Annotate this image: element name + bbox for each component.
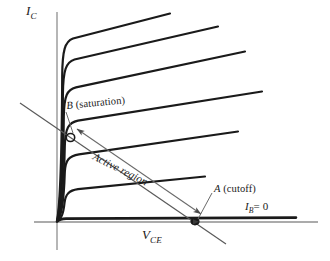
x-axis-label-main: V [142,227,150,242]
y-axis-label: IC [26,4,37,21]
cutoff-label: A (cutoff) [214,184,256,195]
y-axis-label-sub: C [30,11,36,21]
leader-lines-group [66,112,212,219]
characteristic-curves-group [57,14,296,222]
leader-a-cutoff [198,193,212,219]
curve-ib-5 [57,27,218,222]
base-current-zero-label: IB= 0 [245,201,268,215]
transistor-characteristic-figure: IC VCE B (saturation) Active region A (c… [0,0,330,261]
axes-group [34,12,318,250]
cutoff-label-text: (cutoff) [221,183,256,194]
base-current-equals: = 0 [254,200,269,212]
x-axis-label: VCE [142,228,162,245]
x-axis-label-sub: CE [150,235,162,245]
curve-ib-4 [57,52,245,222]
curve-ib-0 [57,218,296,222]
figure-canvas [0,0,330,261]
curve-ib-3 [57,92,262,222]
